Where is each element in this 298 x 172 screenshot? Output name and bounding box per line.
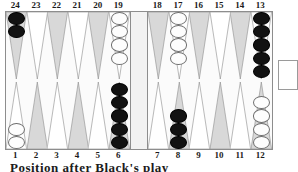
point-label-17: 17 [168,0,189,11]
top-right-label-group: 18 17 16 15 14 13 [147,0,271,11]
point-label-15: 15 [209,0,230,11]
bottom-point-labels: 1 2 3 4 5 6 7 8 9 10 11 12 [5,150,273,161]
point-triangle-14 [230,12,251,81]
point-label-24: 24 [5,0,26,11]
point-label-13: 13 [250,0,271,11]
point-label-10: 10 [209,150,230,161]
bottom-label-bar-gap [129,150,147,161]
point-triangle-18 [148,12,169,81]
point-triangle-5 [88,80,109,149]
point-triangle-7 [148,80,169,149]
backgammon-diagram: 24 23 22 21 20 19 18 17 16 15 14 13 1 2 [0,0,298,172]
caption-text: Position after Black's play [10,161,298,172]
point-8[interactable] [169,80,190,149]
point-17[interactable] [169,12,190,81]
point-label-6: 6 [108,150,129,161]
point-triangle-12 [251,80,272,149]
point-label-4: 4 [67,150,88,161]
point-label-8: 8 [168,150,189,161]
point-9[interactable] [189,80,210,149]
top-point-labels: 24 23 22 21 20 19 18 17 16 15 14 13 [5,0,273,11]
point-21[interactable] [68,12,89,81]
point-10[interactable] [210,80,231,149]
point-24[interactable] [6,12,27,81]
point-label-20: 20 [87,0,108,11]
point-triangle-4 [68,80,89,149]
caption-clipped: Position after Black's play [10,161,298,172]
point-triangle-17 [169,12,190,81]
point-1[interactable] [6,80,27,149]
point-label-22: 22 [46,0,67,11]
point-15[interactable] [210,12,231,81]
point-6[interactable] [109,80,130,149]
top-label-bar-gap [129,0,147,11]
point-label-5: 5 [87,150,108,161]
point-label-19: 19 [108,0,129,11]
quadrant-top-left [6,12,130,81]
point-label-23: 23 [26,0,47,11]
board-frame [5,11,273,150]
quadrant-top-right [148,12,272,81]
point-label-12: 12 [250,150,271,161]
point-label-1: 1 [5,150,26,161]
point-label-9: 9 [188,150,209,161]
point-4[interactable] [68,80,89,149]
point-triangle-2 [27,80,48,149]
point-3[interactable] [47,80,68,149]
point-triangle-6 [109,80,130,149]
point-19[interactable] [109,12,130,81]
point-label-18: 18 [147,0,168,11]
point-label-14: 14 [229,0,250,11]
point-14[interactable] [230,12,251,81]
point-triangle-22 [47,12,68,81]
point-triangle-19 [109,12,130,81]
quadrant-bottom-left [6,80,130,149]
point-triangle-11 [230,80,251,149]
point-7[interactable] [148,80,169,149]
point-triangle-13 [251,12,272,81]
point-triangle-8 [169,80,190,149]
bottom-left-label-group: 1 2 3 4 5 6 [5,150,129,161]
point-22[interactable] [47,12,68,81]
point-20[interactable] [88,12,109,81]
point-triangle-20 [88,12,109,81]
point-2[interactable] [27,80,48,149]
bottom-right-label-group: 7 8 9 10 11 12 [147,150,271,161]
point-triangle-10 [210,80,231,149]
point-label-11: 11 [229,150,250,161]
point-16[interactable] [189,12,210,81]
point-triangle-16 [189,12,210,81]
point-23[interactable] [27,12,48,81]
point-11[interactable] [230,80,251,149]
point-triangle-3 [47,80,68,149]
point-triangle-15 [210,12,231,81]
point-12[interactable] [251,80,272,149]
quadrant-bottom-right [148,80,272,149]
point-triangle-21 [68,12,89,81]
bear-off-tray[interactable] [278,60,298,90]
point-label-7: 7 [147,150,168,161]
point-label-2: 2 [26,150,47,161]
point-18[interactable] [148,12,169,81]
point-triangle-23 [27,12,48,81]
point-13[interactable] [251,12,272,81]
top-left-label-group: 24 23 22 21 20 19 [5,0,129,11]
point-label-16: 16 [188,0,209,11]
point-label-3: 3 [46,150,67,161]
point-triangle-1 [6,80,27,149]
point-5[interactable] [88,80,109,149]
point-label-21: 21 [67,0,88,11]
point-triangle-24 [6,12,27,81]
board-bar[interactable] [130,12,148,149]
point-triangle-9 [189,80,210,149]
